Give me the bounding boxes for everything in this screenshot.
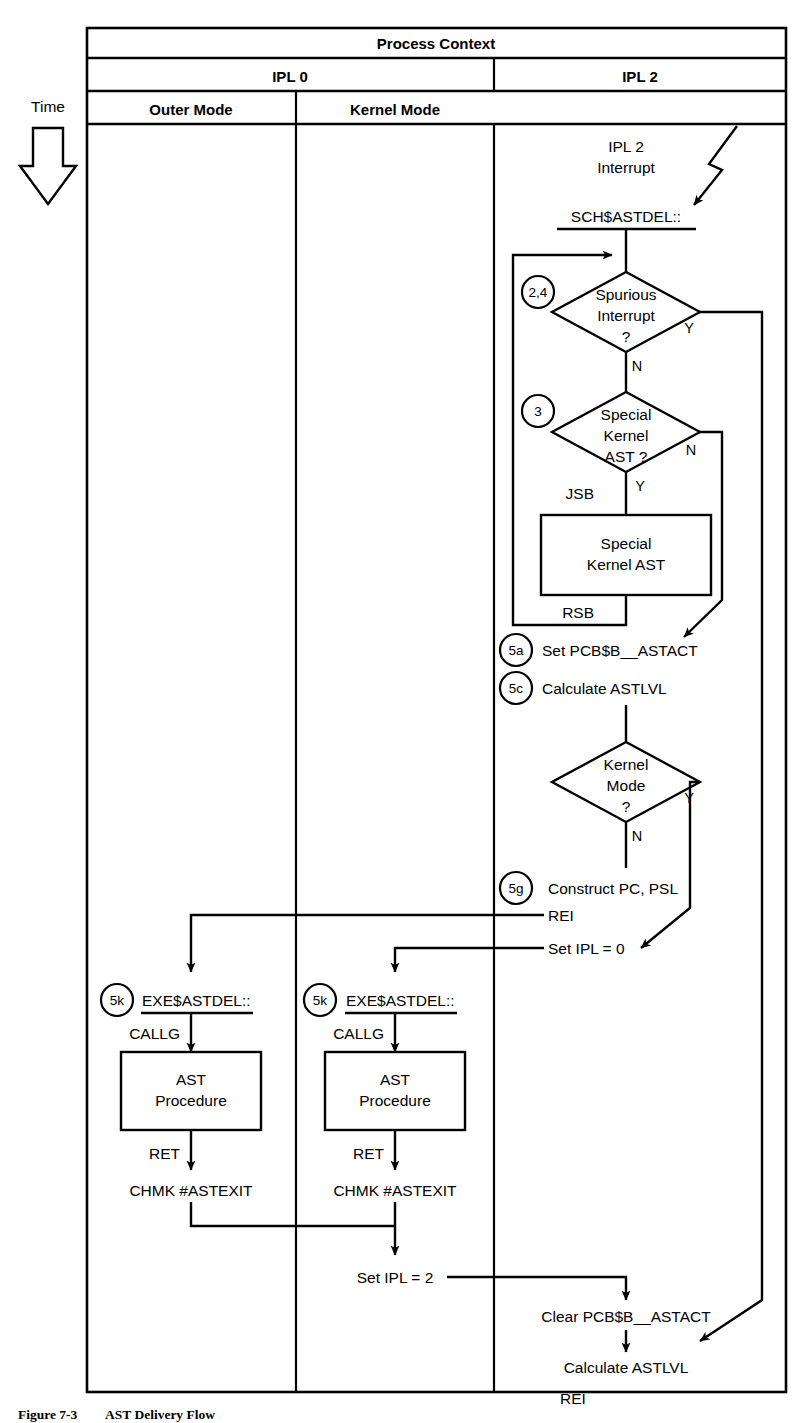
set-ipl0-transfer-to-kernel-mode: Set IPL = 0 xyxy=(395,940,625,972)
outer-ast-procedure-line1: AST xyxy=(176,1071,207,1088)
rei-label: REI xyxy=(548,907,574,924)
outer-ret-label: RET xyxy=(149,1145,181,1162)
set-ipl2-and-cleanup: Set IPL = 2 Clear PCB$B__ASTACT Calculat… xyxy=(357,1269,712,1407)
outer-step-badge-5k-label: 5k xyxy=(110,993,125,1008)
spurious-yes-path xyxy=(700,312,762,1341)
set-ipl2-path-to-ipl2-column xyxy=(447,1277,626,1300)
final-calculate-astlvl-label: Calculate ASTLVL xyxy=(564,1359,689,1376)
lightning-bolt-interrupt-icon xyxy=(694,126,737,205)
sch-astdel-label: SCH$ASTDEL:: xyxy=(571,208,681,225)
step-badge-5a-label: 5a xyxy=(508,643,524,658)
step-5a-set-astact: 5a Set PCB$B__ASTACT xyxy=(500,634,698,666)
special-kernel-box-line2: Kernel AST xyxy=(587,556,666,573)
special-kernel-line2: Kernel xyxy=(604,427,649,444)
rei-path-to-outer-mode xyxy=(191,915,544,972)
kernel-exe-astdel-label: EXE$ASTDEL:: xyxy=(346,992,455,1009)
kernel-mode-yes-path xyxy=(641,782,700,948)
time-axis: Time xyxy=(20,98,76,204)
jsb-label: JSB xyxy=(566,485,594,502)
header-title: Process Context xyxy=(377,35,495,52)
figure-page: Time Process Context IPL 0 IPL 2 Outer M… xyxy=(0,0,812,1423)
kernel-chmk-astexit-label: CHMK #ASTEXIT xyxy=(333,1182,457,1199)
kernel-ast-procedure-line2: Procedure xyxy=(359,1092,431,1109)
figure-caption: Figure 7-3 AST Delivery Flow xyxy=(18,1407,215,1422)
outer-ast-procedure-line2: Procedure xyxy=(155,1092,227,1109)
spurious-no-label: N xyxy=(632,358,642,374)
step-5g-construct: 5g Construct PC, PSL xyxy=(500,872,678,904)
decision-kernel-mode: Kernel Mode ? Y N xyxy=(552,705,700,948)
step-badge-5g-label: 5g xyxy=(508,881,523,896)
header-labels: Process Context IPL 0 IPL 2 Outer Mode K… xyxy=(149,35,657,118)
set-ipl0-path-to-kernel-mode xyxy=(395,948,544,972)
step-badge-5c-label: 5c xyxy=(509,681,524,696)
spurious-line2: Interrupt xyxy=(597,307,655,324)
special-kernel-line3: AST ? xyxy=(605,448,648,465)
spurious-line1: Spurious xyxy=(595,286,656,303)
kernel-mode-no-label: N xyxy=(632,828,642,844)
header-kernel-mode: Kernel Mode xyxy=(350,101,440,118)
spurious-line3: ? xyxy=(622,328,631,345)
sch-astdel-entry-point: SCH$ASTDEL:: xyxy=(557,208,696,229)
final-rei-label: REI xyxy=(560,1390,586,1407)
outer-callg-label: CALLG xyxy=(129,1025,180,1042)
step-5c-calculate-astlvl: 5c Calculate ASTLVL xyxy=(500,672,667,704)
outer-ast-procedure-box xyxy=(121,1052,261,1130)
kernel-step-badge-5k-label: 5k xyxy=(313,993,328,1008)
down-arrow-icon xyxy=(20,128,76,204)
ipl2-interrupt-label-line1: IPL 2 xyxy=(608,138,644,155)
clear-astact-label: Clear PCB$B__ASTACT xyxy=(541,1308,711,1325)
kernel-ret-label: RET xyxy=(353,1145,385,1162)
rei-transfer-to-outer-mode: REI xyxy=(191,907,574,972)
kernel-mode-line1: Kernel xyxy=(604,756,649,773)
figure-caption-number: Figure 7-3 xyxy=(18,1407,78,1422)
calculate-astlvl-text: Calculate ASTLVL xyxy=(542,680,667,697)
header-ipl2: IPL 2 xyxy=(622,68,658,85)
outer-chmk-join-path xyxy=(191,1202,395,1226)
kernel-callg-label: CALLG xyxy=(333,1025,384,1042)
special-kernel-box-line1: Special xyxy=(601,535,652,552)
header-ipl0: IPL 0 xyxy=(272,68,308,85)
step-badge-2-4-label: 2,4 xyxy=(529,285,548,300)
special-kernel-no-label: N xyxy=(686,442,696,458)
kernel-mode-line3: ? xyxy=(622,798,631,815)
step-badge-3-label: 3 xyxy=(534,404,542,419)
rsb-label: RSB xyxy=(562,604,594,621)
set-astact-text: Set PCB$B__ASTACT xyxy=(542,642,698,659)
kernel-mode-line2: Mode xyxy=(607,777,646,794)
outer-exe-astdel-label: EXE$ASTDEL:: xyxy=(142,992,251,1009)
ast-delivery-flow-diagram: Time Process Context IPL 0 IPL 2 Outer M… xyxy=(0,0,812,1423)
time-label: Time xyxy=(31,98,65,115)
set-ipl0-label: Set IPL = 0 xyxy=(548,940,625,957)
kernel-mode-ast-flow: 5k EXE$ASTDEL:: CALLG AST Procedure RET … xyxy=(304,984,465,1255)
kernel-ast-procedure-line1: AST xyxy=(380,1071,411,1088)
figure-caption-title: AST Delivery Flow xyxy=(105,1407,215,1422)
outer-chmk-astexit-label: CHMK #ASTEXIT xyxy=(129,1182,253,1199)
spurious-yes-label: Y xyxy=(684,320,694,336)
ipl2-interrupt-label-line2: Interrupt xyxy=(597,159,655,176)
construct-pc-psl-text: Construct PC, PSL xyxy=(548,880,678,897)
set-ipl2-label: Set IPL = 2 xyxy=(357,1269,434,1286)
special-kernel-yes-label: Y xyxy=(635,478,645,494)
special-kernel-line1: Special xyxy=(601,406,652,423)
special-kernel-no-path xyxy=(684,432,722,637)
ipl2-interrupt-entry: IPL 2 Interrupt xyxy=(597,126,737,205)
header-outer-mode: Outer Mode xyxy=(149,101,232,118)
kernel-ast-procedure-box xyxy=(325,1052,465,1130)
